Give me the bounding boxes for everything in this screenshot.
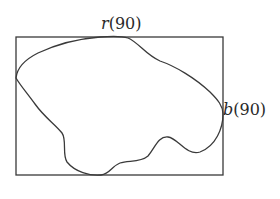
label-r-symbol: r	[101, 14, 109, 33]
label-r-arg: (90)	[109, 14, 142, 33]
closed-region-curve	[16, 36, 223, 175]
label-b-symbol: b	[223, 100, 233, 119]
bounding-rectangle	[16, 37, 223, 175]
label-b-arg: (90)	[233, 100, 266, 119]
label-r-90: r(90)	[101, 16, 142, 32]
label-b-90: b(90)	[223, 102, 266, 118]
